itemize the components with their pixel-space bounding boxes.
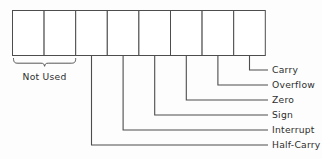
group-label-not-used: Not Used <box>23 71 67 82</box>
flag-label-carry: Carry <box>272 64 298 75</box>
callout-leader-interrupt <box>123 56 268 131</box>
flag-label-half-carry: Half-Carry <box>272 139 321 150</box>
register-cell-1[interactable] <box>44 11 76 56</box>
register-cell-group <box>13 11 266 56</box>
flag-label-zero: Zero <box>272 94 294 105</box>
callout-leader-zero <box>186 56 268 101</box>
not-used-brace <box>14 59 76 67</box>
register-cell-3[interactable] <box>107 11 139 56</box>
callout-leader-carry <box>250 56 269 71</box>
register-cell-7[interactable] <box>234 11 266 56</box>
register-cell-2[interactable] <box>76 11 108 56</box>
register-cell-0[interactable] <box>13 11 45 56</box>
diagram-canvas: Not Used Carry Overflow Zero Sign Interr… <box>0 0 322 159</box>
flag-label-sign: Sign <box>272 109 293 120</box>
register-cell-6[interactable] <box>202 11 234 56</box>
flag-label-overflow: Overflow <box>272 79 315 90</box>
status-register-diagram: Not Used Carry Overflow Zero Sign Interr… <box>0 0 322 159</box>
flag-label-interrupt: Interrupt <box>272 124 315 135</box>
register-cell-4[interactable] <box>139 11 171 56</box>
register-cell-5[interactable] <box>171 11 203 56</box>
